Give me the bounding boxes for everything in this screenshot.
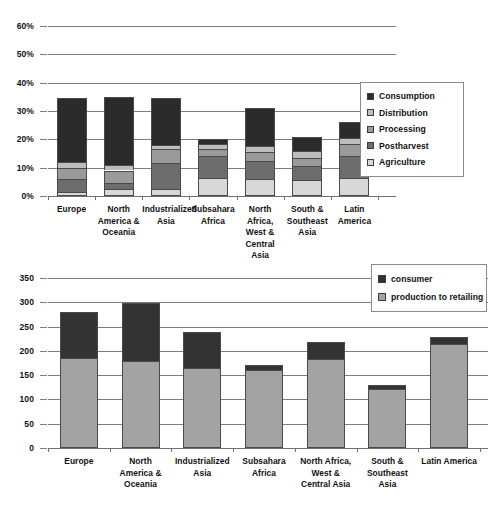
- x-axis-label-4: SubsaharaAfrica: [189, 204, 236, 227]
- bar-2-4: [245, 278, 283, 448]
- bar-1-5: [245, 26, 275, 196]
- y-axis-tick-label: 350: [12, 273, 34, 283]
- x-axis-tick-mark: [142, 196, 143, 200]
- bar-2-5: [307, 278, 345, 448]
- bar-segment-consumption: [245, 108, 275, 146]
- bar-2-2: [122, 278, 160, 448]
- x-axis-tick-mark: [48, 448, 49, 452]
- y-axis-tick-label: 100: [12, 394, 34, 404]
- x-axis-label-3: IndustrializedAsia: [142, 204, 189, 227]
- chart-1-legend-item-4: Postharvest: [367, 138, 457, 155]
- bar-segment-production-to-retailing: [430, 344, 468, 448]
- x-axis-label-6: South &SoutheastAsia: [284, 204, 331, 239]
- bar-segment-consumer: [307, 342, 345, 359]
- bar-2-1: [60, 278, 98, 448]
- x-axis-label-5: North Africa,West &Central Asia: [237, 204, 284, 262]
- bar-segment-postharvest: [151, 163, 181, 189]
- legend-label: Postharvest: [379, 141, 429, 151]
- y-axis-tick-label: 50: [12, 419, 34, 429]
- y-axis-tick-mark: [40, 448, 47, 449]
- x-axis-tick-mark: [418, 448, 419, 452]
- bar-segment-consumption: [57, 98, 87, 162]
- bar-segment-consumer: [245, 365, 283, 370]
- y-axis-tick-mark: [40, 399, 47, 400]
- y-axis-tick-label: 40%: [10, 78, 34, 88]
- y-axis-tick-mark: [40, 83, 47, 84]
- bar-segment-production-to-retailing: [183, 368, 221, 448]
- legend-swatch-icon: [367, 142, 374, 149]
- bar-segment-processing: [151, 149, 181, 163]
- legend-label: consumer: [391, 274, 432, 284]
- bar-segment-production-to-retailing: [60, 358, 98, 448]
- legend-swatch-icon: [378, 275, 386, 283]
- x-axis-label-7: LatinAmerica: [331, 204, 378, 227]
- y-axis-tick-mark: [40, 424, 47, 425]
- x-axis-tick-mark: [171, 448, 172, 452]
- legend-swatch-icon: [367, 126, 374, 133]
- x-axis-tick-mark: [331, 196, 332, 200]
- y-axis-tick-mark: [40, 54, 47, 55]
- bar-segment-distribution: [198, 144, 228, 150]
- x-axis-tick-mark: [480, 448, 481, 452]
- bar-segment-consumer: [368, 385, 406, 389]
- bar-segment-consumption: [104, 97, 134, 165]
- y-axis-tick-label: 20%: [10, 134, 34, 144]
- y-axis-tick-label: 50%: [10, 49, 34, 59]
- y-axis-tick-mark: [40, 168, 47, 169]
- bar-1-4: [198, 26, 228, 196]
- bar-segment-agriculture: [151, 189, 181, 196]
- chart-1-legend-item-2: Distribution: [367, 105, 457, 122]
- y-axis-tick-label: 0: [12, 443, 34, 453]
- legend-swatch-icon: [378, 293, 386, 301]
- x-axis-tick-mark: [95, 196, 96, 200]
- chart-1-plot-area: 0%10%20%30%40%50%60%EuropeNorthAmerica &…: [48, 26, 378, 196]
- y-axis-tick-mark: [40, 302, 47, 303]
- legend-label: Consumption: [379, 91, 435, 101]
- legend-label: production to retailing: [391, 292, 483, 302]
- y-axis-tick-mark: [40, 375, 47, 376]
- chart-2-legend-item-1: consumer: [378, 270, 480, 288]
- y-axis-tick-mark: [40, 111, 47, 112]
- bar-1-2: [104, 26, 134, 196]
- legend-swatch-icon: [367, 159, 374, 166]
- bar-segment-agriculture: [292, 180, 322, 196]
- bar-segment-distribution: [104, 165, 134, 171]
- bar-segment-postharvest: [292, 166, 322, 180]
- x-axis-tick-mark: [295, 448, 296, 452]
- bar-segment-processing: [104, 171, 134, 184]
- bar-segment-production-to-retailing: [307, 359, 345, 448]
- x-axis-tick-mark: [233, 448, 234, 452]
- bar-segment-agriculture: [339, 178, 369, 196]
- bar-segment-production-to-retailing: [122, 361, 160, 448]
- chart-1-legend-item-1: Consumption: [367, 88, 457, 105]
- y-axis-tick-label: 200: [12, 346, 34, 356]
- y-axis-tick-mark: [40, 26, 47, 27]
- bar-segment-agriculture: [57, 192, 87, 196]
- x-axis-label-6: South &SoutheastAsia: [357, 456, 419, 491]
- x-axis-tick-mark: [110, 448, 111, 452]
- y-axis-tick-label: 150: [12, 370, 34, 380]
- bar-segment-postharvest: [57, 179, 87, 192]
- y-axis-tick-label: 60%: [10, 21, 34, 31]
- y-axis-tick-label: 30%: [10, 106, 34, 116]
- x-axis-tick-mark: [357, 448, 358, 452]
- y-axis-tick-mark: [40, 278, 47, 279]
- x-axis-tick-mark: [378, 196, 379, 200]
- bar-segment-consumption: [292, 137, 322, 151]
- legend-swatch-icon: [367, 93, 374, 100]
- x-axis-tick-mark: [284, 196, 285, 200]
- bar-segment-consumer: [430, 337, 468, 343]
- bar-segment-processing: [57, 168, 87, 179]
- bar-segment-production-to-retailing: [245, 370, 283, 448]
- bar-segment-consumption: [151, 98, 181, 145]
- x-axis-label-4: SubsaharaAfrica: [233, 456, 295, 479]
- chart-2-legend-item-2: production to retailing: [378, 288, 480, 306]
- x-axis-tick-mark: [189, 196, 190, 200]
- y-axis-tick-label: 300: [12, 297, 34, 307]
- x-axis-label-1: Europe: [48, 456, 110, 468]
- bar-1-1: [57, 26, 87, 196]
- x-axis-label-3: IndustrializedAsia: [171, 456, 233, 479]
- bar-segment-distribution: [57, 162, 87, 168]
- bar-segment-distribution: [245, 146, 275, 152]
- y-axis-tick-label: 0%: [10, 191, 34, 201]
